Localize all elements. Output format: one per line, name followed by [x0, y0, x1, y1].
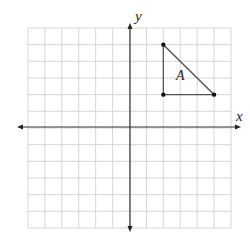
triangle-a: A [161, 42, 216, 96]
x-axis-right-arrow-icon [235, 125, 241, 130]
coordinate-plane-figure: x y A [0, 0, 250, 247]
y-axis-bottom-arrow-icon [128, 226, 133, 232]
vertex-point [161, 92, 165, 96]
y-axis-top-arrow-icon [128, 23, 133, 29]
vertex-point [161, 42, 165, 46]
x-axis-left-arrow-icon [17, 125, 23, 130]
x-axis-label: x [235, 108, 243, 124]
triangle-a-label: A [175, 68, 185, 83]
axes: x y [17, 8, 243, 232]
vertex-point [212, 92, 216, 96]
y-axis-label: y [133, 8, 142, 24]
triangle-a-polygon [163, 45, 214, 95]
